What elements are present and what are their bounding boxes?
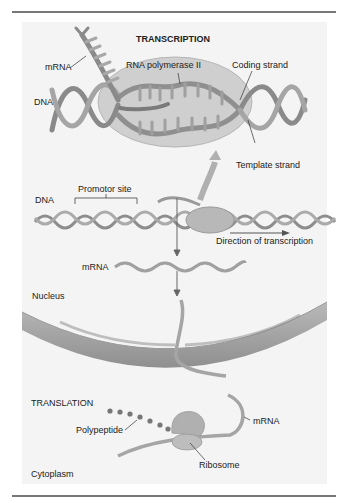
- transcription-title: TRANSCRIPTION: [136, 34, 210, 44]
- rna-polymerase-small: [186, 207, 234, 233]
- dna-helix-middle: [35, 212, 335, 228]
- dna-label-middle: DNA: [35, 195, 54, 205]
- polypeptide-label: Polypeptide: [76, 425, 123, 435]
- ribosome: [172, 412, 205, 450]
- zoom-arrow: [200, 162, 215, 200]
- rna-polymerase-label: RNA polymerase II: [126, 60, 201, 70]
- cytoplasm-label: Cytoplasm: [31, 469, 74, 479]
- mrna-label-middle: mRNA: [82, 262, 109, 272]
- mrna-label-bottom: mRNA: [253, 416, 280, 426]
- ribosome-label: Ribosome: [199, 460, 240, 470]
- dna-label-top: DNA: [34, 97, 53, 107]
- translation-title: TRANSLATION: [31, 398, 93, 408]
- coding-strand-label: Coding strand: [232, 60, 288, 70]
- bottom-rule: [12, 495, 336, 497]
- mrna-wave: [115, 262, 245, 271]
- nucleus-label: Nucleus: [32, 291, 65, 301]
- mrna-label-top: mRNA: [45, 62, 72, 72]
- template-strand-label: Template strand: [236, 160, 300, 170]
- nuclear-membrane: [22, 302, 327, 368]
- transcription-translation-diagram: [0, 0, 344, 503]
- direction-of-transcription-label: Direction of transcription: [216, 236, 313, 246]
- promotor-bracket: [75, 194, 137, 204]
- promotor-site-label: Promotor site: [78, 184, 132, 194]
